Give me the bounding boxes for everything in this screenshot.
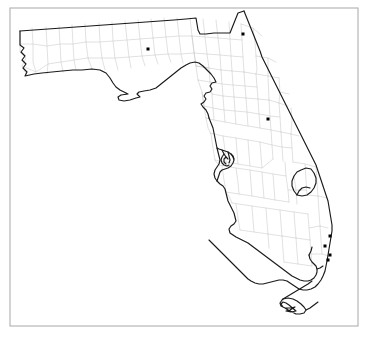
marker-southeast-palmbeach[interactable]	[329, 235, 332, 238]
florida-map	[0, 0, 367, 339]
marker-southeast-fortlauderdale[interactable]	[324, 245, 327, 248]
marker-southeast-miami[interactable]	[329, 254, 332, 257]
marker-panhandle-tallahassee[interactable]	[147, 48, 150, 51]
marker-central-orlando[interactable]	[267, 118, 270, 121]
marker-southeast-homestead[interactable]	[327, 259, 330, 262]
marker-northeast-jacksonville[interactable]	[242, 33, 245, 36]
map-container	[0, 0, 367, 339]
